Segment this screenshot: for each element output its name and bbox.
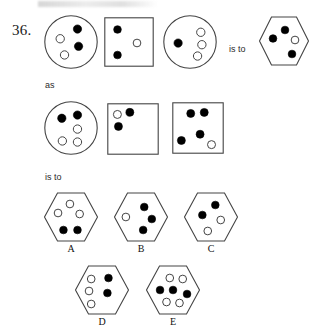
shape-hexagon-1 [259, 16, 309, 66]
option-c-label: C [184, 243, 238, 254]
open-dot [66, 200, 74, 208]
option-b-shape[interactable] [114, 192, 168, 242]
filled-dot [114, 26, 122, 34]
page-header-artifact [38, 1, 158, 7]
filled-dot [269, 35, 277, 43]
option-e-label: E [146, 316, 200, 327]
filled-dot [73, 25, 81, 33]
filled-dot [73, 111, 81, 119]
filled-dot [104, 289, 112, 297]
open-dot [122, 213, 130, 221]
connector-is-to-top: is to [229, 44, 246, 54]
open-dot [133, 39, 141, 47]
shape-square-2 [107, 103, 159, 155]
filled-dot [187, 109, 195, 117]
hexagon-outline [260, 17, 309, 65]
filled-dot [281, 26, 289, 34]
open-dot [166, 274, 174, 282]
open-dot [208, 141, 216, 149]
filled-dot [177, 136, 185, 144]
open-dot [87, 300, 95, 308]
open-dot [197, 28, 205, 36]
shape-circle-1 [44, 15, 98, 69]
open-dot [198, 41, 206, 49]
open-dot [73, 125, 81, 133]
filled-dot [58, 114, 66, 122]
open-dot [56, 35, 64, 43]
open-dot [60, 51, 68, 59]
open-dot [176, 299, 184, 307]
circle-outline [45, 102, 97, 154]
filled-dot [114, 51, 122, 59]
option-a-shape[interactable] [44, 192, 98, 242]
filled-dot [169, 286, 177, 294]
option-e-shape[interactable] [146, 265, 200, 315]
open-dot [85, 287, 93, 295]
filled-dot [211, 201, 219, 209]
filled-dot [183, 290, 191, 298]
filled-dot [288, 50, 296, 58]
filled-dot [139, 226, 147, 234]
open-dot [193, 52, 201, 60]
option-d-label: D [75, 316, 129, 327]
shape-circle-2 [163, 15, 217, 69]
open-dot [163, 298, 171, 306]
filled-dot [74, 42, 82, 50]
square-outline [105, 18, 153, 66]
filled-dot [156, 286, 164, 294]
filled-dot [105, 274, 113, 282]
option-a-label: A [44, 243, 98, 254]
filled-dot [60, 226, 68, 234]
open-dot [291, 36, 299, 44]
option-c-shape[interactable] [184, 192, 238, 242]
connector-as: as [45, 80, 55, 90]
open-dot [204, 227, 212, 235]
hexagon-outline [76, 266, 129, 314]
connector-is-to-bottom: is to [45, 172, 62, 182]
filled-dot [140, 203, 148, 211]
open-dot [54, 209, 62, 217]
option-d-shape[interactable] [75, 265, 129, 315]
open-dot [87, 275, 95, 283]
filled-dot [126, 108, 134, 116]
filled-dot [200, 108, 208, 116]
open-dot [113, 110, 121, 118]
open-dot [217, 216, 225, 224]
open-dot [76, 210, 84, 218]
option-b-label: B [114, 243, 168, 254]
open-dot [58, 137, 66, 145]
filled-dot [196, 130, 204, 138]
filled-dot [199, 211, 207, 219]
shape-square-3 [172, 102, 224, 154]
circle-outline [45, 16, 97, 68]
shape-circle-3 [44, 101, 98, 155]
worksheet-page: 36. is to as is to A B C D E [0, 0, 313, 332]
filled-dot [174, 39, 182, 47]
open-dot [179, 275, 187, 283]
circle-outline [164, 16, 216, 68]
filled-dot [114, 122, 122, 130]
open-dot [73, 138, 81, 146]
filled-dot [148, 215, 156, 223]
shape-square-1 [104, 17, 154, 67]
question-number: 36. [12, 22, 31, 39]
filled-dot [74, 226, 82, 234]
